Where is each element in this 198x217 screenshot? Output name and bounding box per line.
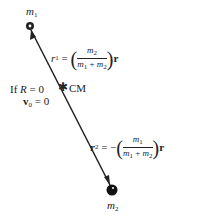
cm-label: CM [69, 83, 86, 94]
mass2-dot-center [112, 187, 114, 189]
r2-fraction: m1 m1 + m2 [123, 135, 153, 160]
mass1-label: m1 [26, 6, 37, 19]
condition-v0-zero: v0 = 0 [23, 96, 49, 109]
r1-equation: r1 = ( m2 m1 + m2 )r [51, 46, 118, 71]
r2-equation: r2 = − ( m1 m1 + m2 )r [90, 135, 164, 160]
condition-r-zero: If R = 0 [10, 84, 44, 95]
cm-star-icon: ✱ [58, 80, 68, 94]
r1-fraction: m2 m1 + m2 [77, 46, 107, 71]
mass2-label: m2 [107, 200, 118, 213]
mass2-dot [107, 185, 118, 196]
mass1-dot-center [29, 25, 32, 28]
